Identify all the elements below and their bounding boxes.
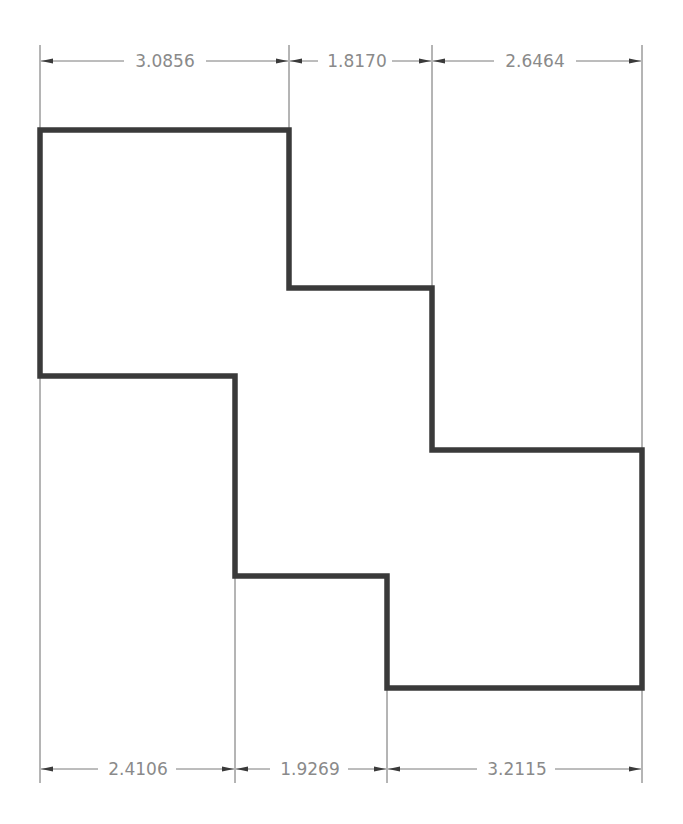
dimension-label: 2.4106 [108,759,167,779]
top-dimension-2-6464: 2.6464 [433,50,641,72]
bottom-dimension-1-9269: 1.9269 [236,758,386,780]
arrowhead-right-icon [419,59,431,64]
dimension-label: 1.9269 [280,759,339,779]
arrowhead-left-icon [236,767,248,772]
arrowhead-right-icon [629,59,641,64]
bottom-dimension-3-2115: 3.2115 [388,758,641,780]
arrowhead-left-icon [41,59,53,64]
dimension-label: 3.0856 [135,51,194,71]
top-extension-lines [40,45,642,450]
bottom-dimension-2-4106: 2.4106 [41,758,234,780]
technical-drawing: 3.0856 1.8170 2.6464 2.4106 1.9269 3.211… [0,0,683,824]
arrowhead-left-icon [388,767,400,772]
arrowhead-right-icon [276,59,288,64]
arrowhead-left-icon [41,767,53,772]
arrowhead-left-icon [433,59,445,64]
arrowhead-right-icon [629,767,641,772]
stepped-shape-outline [40,130,642,688]
arrowhead-right-icon [374,767,386,772]
top-dimension-1-8170: 1.8170 [290,50,431,72]
arrowhead-right-icon [222,767,234,772]
dimension-label: 2.6464 [505,51,564,71]
dimension-label: 3.2115 [487,759,546,779]
top-dimension-3-0856: 3.0856 [41,50,288,72]
bottom-extension-lines [40,376,642,783]
arrowhead-left-icon [290,59,302,64]
dimension-label: 1.8170 [327,51,386,71]
